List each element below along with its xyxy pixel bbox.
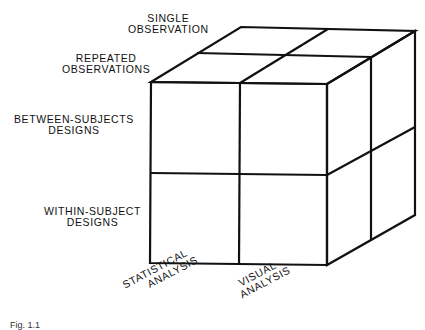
label-between-subjects-designs: BETWEEN-SUBJECTS DESIGNS	[14, 114, 134, 136]
figure-caption: Fig. 1.1	[10, 320, 40, 330]
label-within-subject-designs: WITHIN-SUBJECT DESIGNS	[44, 206, 141, 228]
cube-diagram	[0, 0, 425, 330]
label-single-observation: SINGLE OBSERVATION	[128, 13, 209, 35]
label-repeated-observations: REPEATED OBSERVATIONS	[62, 53, 150, 75]
